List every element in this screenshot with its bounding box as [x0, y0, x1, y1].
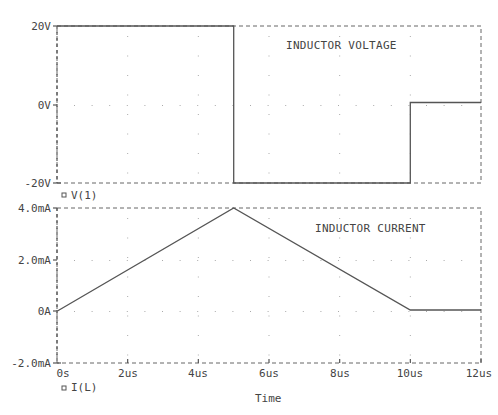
voltage-plot: 20V 0V -20V INDUCTOR VOLTAGE V(1) — [25, 20, 482, 202]
voltage-ytick-20: 20V — [31, 20, 51, 33]
voltage-grid — [74, 36, 462, 174]
voltage-legend: V(1) — [71, 189, 98, 202]
current-plot-title: INDUCTOR CURRENT — [315, 222, 426, 235]
voltage-ytick-0: 0V — [38, 99, 52, 112]
current-plot: 4.0mA 2.0mA 0A -2.0mA INDUCTOR CURRENT 0… — [11, 202, 492, 405]
simulation-plot: 20V 0V -20V INDUCTOR VOLTAGE V(1) 4.0mA … — [0, 0, 498, 415]
xtick-8: 8us — [330, 367, 350, 380]
current-ytick-neg2ma: -2.0mA — [11, 357, 51, 370]
current-ytick-4ma: 4.0mA — [18, 202, 51, 215]
xtick-10: 10us — [397, 367, 424, 380]
voltage-plot-title: INDUCTOR VOLTAGE — [286, 39, 397, 52]
x-axis-label: Time — [255, 392, 282, 405]
xtick-12: 12us — [466, 367, 493, 380]
voltage-trace — [57, 26, 481, 183]
voltage-plot-frame — [57, 26, 481, 183]
current-ytick-2ma: 2.0mA — [18, 254, 51, 267]
voltage-ytick-neg20: -20V — [25, 177, 52, 190]
xtick-4: 4us — [188, 367, 208, 380]
current-ytick-0a: 0A — [38, 305, 52, 318]
xtick-0: 0s — [56, 367, 69, 380]
x-axis-ticks — [128, 359, 481, 363]
voltage-legend-marker-icon — [62, 193, 66, 197]
xtick-2: 2us — [118, 367, 138, 380]
current-legend-marker-icon — [62, 386, 66, 390]
xtick-6: 6us — [259, 367, 279, 380]
current-grid — [74, 218, 462, 356]
current-legend: I(L) — [71, 381, 98, 394]
